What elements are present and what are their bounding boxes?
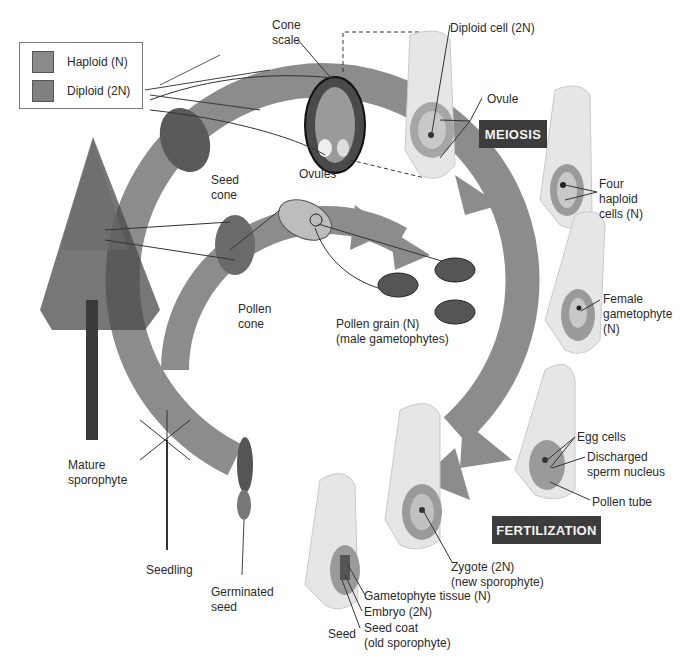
pollen-grains-drawing — [378, 258, 475, 324]
label-pollen-cone-2: cone — [238, 317, 264, 331]
legend: Haploid (N) Diploid (2N) — [19, 42, 143, 109]
label-four-haploid-2: haploid — [599, 192, 638, 206]
label-ovules: Ovules — [299, 167, 336, 181]
label-seed-coat-1: Seed coat — [364, 621, 418, 635]
label-mature-sporophyte-1: Mature — [68, 458, 105, 472]
label-egg-cells: Egg cells — [577, 430, 626, 444]
stage-fertilization: FERTILIZATION — [492, 516, 601, 544]
legend-label-haploid: Haploid (N) — [67, 55, 128, 69]
ovule-drawing-4 — [515, 364, 575, 499]
label-discharged-2: sperm nucleus — [587, 465, 665, 479]
label-pollen-tube: Pollen tube — [592, 495, 652, 509]
legend-item-diploid: Diploid (2N) — [32, 80, 130, 102]
label-diploid-cell: Diploid cell (2N) — [450, 21, 535, 35]
germinated-seed-drawing — [237, 437, 253, 575]
label-seedling: Seedling — [146, 563, 193, 577]
label-seed-cone-2: cone — [211, 188, 237, 202]
legend-item-haploid: Haploid (N) — [32, 51, 128, 73]
label-female-gametophyte-3: (N) — [603, 322, 620, 336]
label-zygote-1: Zygote (2N) — [451, 560, 514, 574]
cone-scale-drawing — [305, 77, 365, 173]
label-embryo: Embryo (2N) — [364, 605, 432, 619]
label-germinated-seed-1: Germinated — [211, 585, 274, 599]
diploid-swatch — [32, 80, 54, 102]
label-four-haploid-1: Four — [599, 177, 624, 191]
label-female-gametophyte-2: gametophyte — [603, 307, 672, 321]
label-pollen-grain-2: (male gametophytes) — [336, 332, 449, 346]
arrowhead-pollen-2 — [390, 230, 430, 270]
label-seed: Seed — [328, 627, 356, 641]
label-mature-sporophyte-2: sporophyte — [68, 473, 127, 487]
stage-meiosis: MEIOSIS — [479, 120, 547, 148]
label-cone-scale-1: Cone — [272, 18, 301, 32]
label-four-haploid-3: cells (N) — [599, 207, 643, 221]
label-discharged-1: Discharged — [587, 450, 648, 464]
legend-label-diploid: Diploid (2N) — [67, 84, 130, 98]
label-seed-coat-2: (old sporophyte) — [364, 636, 451, 650]
haploid-swatch — [32, 51, 54, 73]
label-cone-scale-2: scale — [272, 33, 300, 47]
arrowhead-fertilization — [460, 420, 512, 468]
zygote-ovule-drawing — [385, 404, 442, 549]
label-pollen-cone-1: Pollen — [238, 302, 271, 316]
label-female-gametophyte-1: Female — [603, 292, 643, 306]
label-gametophyte-tissue: Gametophyte tissue (N) — [364, 589, 491, 603]
ovule-drawing-2 — [540, 86, 592, 228]
label-seed-cone-1: Seed — [211, 173, 239, 187]
label-ovule: Ovule — [487, 92, 518, 106]
label-pollen-grain-1: Pollen grain (N) — [336, 317, 419, 331]
pollen-cone-drawing — [215, 215, 255, 275]
label-germinated-seed-2: seed — [211, 600, 237, 614]
label-zygote-2: (new sporophyte) — [451, 575, 544, 589]
ovule-drawing-3 — [545, 212, 605, 354]
ovule-drawing-1 — [405, 31, 455, 178]
